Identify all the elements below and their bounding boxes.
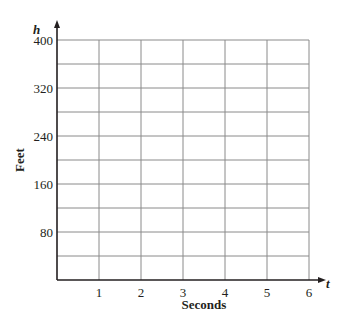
- x-tick-label: 6: [306, 285, 313, 300]
- y-tick-label: 80: [40, 225, 53, 240]
- y-tick-label: 160: [34, 177, 54, 192]
- x-tick-label: 1: [96, 285, 103, 300]
- x-axis-title: Seconds: [182, 297, 227, 312]
- y-tick-label: 320: [34, 81, 54, 96]
- axes: [54, 20, 326, 283]
- y-tick-labels: 80160240320400: [34, 33, 54, 240]
- y-axis-variable: h: [33, 22, 40, 37]
- x-tick-label: 2: [138, 285, 145, 300]
- y-tick-label: 240: [34, 129, 54, 144]
- y-axis-arrow-icon: [54, 20, 60, 28]
- empty-grid-chart: 123456 80160240320400 h t Seconds Feet: [0, 0, 343, 323]
- grid-lines: [57, 40, 309, 280]
- x-tick-label: 5: [264, 285, 271, 300]
- x-axis-arrow-icon: [318, 277, 326, 283]
- x-axis-variable: t: [326, 276, 330, 291]
- y-axis-title: Feet: [12, 147, 27, 171]
